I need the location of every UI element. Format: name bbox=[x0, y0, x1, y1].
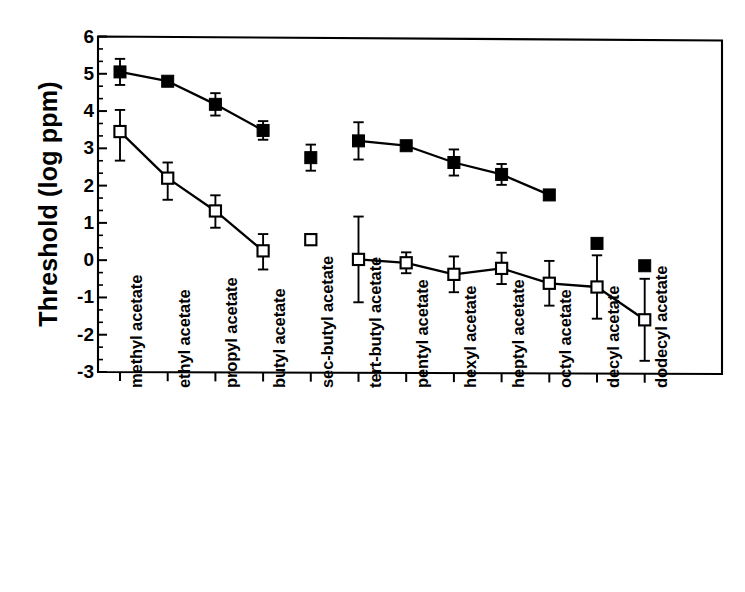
data-point-open-square[interactable] bbox=[448, 269, 459, 280]
data-point-open-square[interactable] bbox=[162, 173, 173, 184]
x-tick-label: hexyl acetate bbox=[461, 286, 480, 388]
x-tick-label: sec-butyl acetate bbox=[318, 256, 337, 388]
x-tick-label: pentyl acetate bbox=[413, 279, 432, 388]
data-point-open-square[interactable] bbox=[210, 205, 221, 216]
filled-square-series-line bbox=[120, 72, 263, 131]
x-tick-label: octyl acetate bbox=[556, 289, 575, 388]
x-tick-label: propyl acetate bbox=[222, 278, 241, 388]
data-point-open-square[interactable] bbox=[496, 263, 507, 274]
x-tick-label: heptyl acetate bbox=[509, 279, 528, 388]
data-point-open-square[interactable] bbox=[639, 314, 650, 325]
data-point-open-square[interactable] bbox=[401, 257, 412, 268]
data-point-filled-square[interactable] bbox=[353, 135, 365, 147]
x-tick-label: dodecyl acetate bbox=[652, 266, 671, 388]
data-point-filled-square[interactable] bbox=[305, 152, 317, 164]
data-point-open-square[interactable] bbox=[353, 254, 364, 265]
x-tick-label: methyl acetate bbox=[127, 275, 146, 388]
data-point-filled-square[interactable] bbox=[639, 260, 651, 272]
data-point-filled-square[interactable] bbox=[162, 75, 174, 87]
chart-figure: Threshold (log ppm) 6543210-1-2-3 methyl… bbox=[0, 0, 745, 592]
data-point-filled-square[interactable] bbox=[114, 66, 126, 78]
data-point-open-square[interactable] bbox=[591, 281, 602, 292]
x-tick-label: decyl acetate bbox=[604, 286, 623, 388]
data-point-open-square[interactable] bbox=[258, 245, 269, 256]
x-tick-label: ethyl acetate bbox=[175, 289, 194, 388]
data-point-filled-square[interactable] bbox=[400, 140, 412, 152]
data-point-filled-square[interactable] bbox=[496, 168, 508, 180]
open-square-series-line bbox=[120, 132, 263, 251]
data-point-open-square[interactable] bbox=[305, 234, 316, 245]
data-point-open-square[interactable] bbox=[544, 278, 555, 289]
x-tick-label: butyl acetate bbox=[270, 288, 289, 388]
data-point-open-square[interactable] bbox=[114, 126, 125, 137]
data-point-filled-square[interactable] bbox=[257, 124, 269, 136]
data-point-filled-square[interactable] bbox=[448, 156, 460, 168]
x-tick-label: tert-butyl acetate bbox=[366, 257, 385, 388]
data-point-filled-square[interactable] bbox=[209, 98, 221, 110]
data-point-filled-square[interactable] bbox=[591, 237, 603, 249]
data-point-filled-square[interactable] bbox=[543, 189, 555, 201]
